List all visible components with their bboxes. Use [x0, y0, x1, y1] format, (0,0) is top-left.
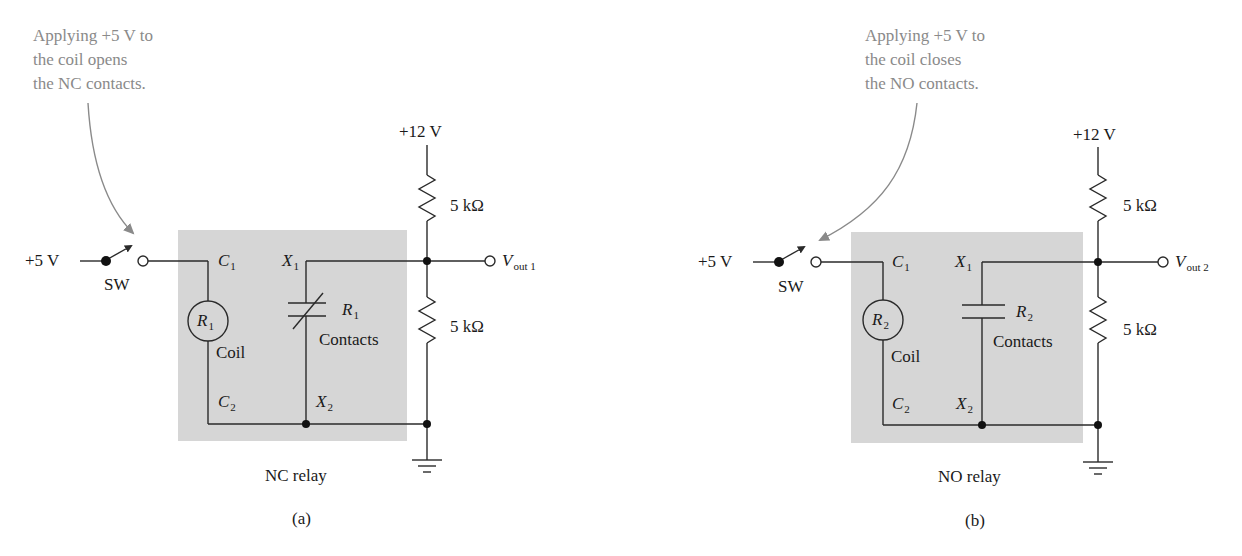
- input-voltage-b: +5 V: [698, 253, 732, 271]
- coil-ref-a: R1: [197, 312, 214, 331]
- node-x2-a: [302, 420, 310, 428]
- resistor-bottom-b: 5 kΩ: [1123, 321, 1157, 339]
- terminal-c1-b: C1: [892, 253, 910, 272]
- relay-label-a: NC relay: [265, 467, 327, 485]
- coil-label-b: Coil: [891, 348, 920, 366]
- caption-b: (b): [965, 512, 985, 530]
- terminal-c1-a: C1: [218, 252, 236, 271]
- panel-a-wiring: [80, 103, 485, 472]
- switch-pivot-a: [101, 256, 111, 266]
- node-gnd-b: [1094, 421, 1102, 429]
- contacts-label-b: Contacts: [993, 333, 1053, 351]
- contacts-label-a: Contacts: [319, 331, 379, 349]
- resistor-bottom-a: 5 kΩ: [450, 318, 484, 336]
- coil-ref-b: R2: [872, 311, 889, 330]
- node-gnd-a: [423, 420, 431, 428]
- switch-label-b: SW: [778, 278, 804, 296]
- contacts-ref-a: R1: [342, 301, 359, 320]
- terminal-c2-a: C2: [218, 393, 236, 412]
- panel-b-wiring: [753, 103, 1158, 474]
- circuit-schematic: [0, 0, 1242, 556]
- switch-contact-a: [138, 256, 148, 266]
- node-out-a: [423, 257, 431, 265]
- panel-b-nodes: [774, 257, 1102, 429]
- resistor-top-a: 5 kΩ: [450, 197, 484, 215]
- input-voltage-a: +5 V: [25, 252, 59, 270]
- vout2-label: Vout 2: [1175, 253, 1209, 272]
- switch-pivot-b: [774, 257, 784, 267]
- annotation-b: Applying +5 V to the coil closes the NO …: [865, 24, 985, 96]
- terminal-c2-b: C2: [892, 395, 910, 414]
- panel-a-nodes: [101, 256, 431, 428]
- vout1-label: Vout 1: [502, 252, 536, 271]
- switch-label-a: SW: [104, 276, 130, 294]
- coil-label-a: Coil: [216, 344, 245, 362]
- supply-voltage-b: +12 V: [1073, 126, 1116, 144]
- node-x2-b: [978, 421, 986, 429]
- supply-voltage-a: +12 V: [399, 123, 442, 141]
- terminal-x1-a: X1: [282, 252, 299, 271]
- vout1-terminal: [485, 256, 495, 266]
- annotation-a: Applying +5 V to the coil opens the NC c…: [33, 24, 153, 96]
- resistor-top-b: 5 kΩ: [1123, 197, 1157, 215]
- terminal-x2-b: X2: [956, 395, 973, 414]
- terminal-x1-b: X1: [955, 253, 972, 272]
- caption-a: (a): [292, 510, 311, 528]
- contacts-ref-b: R2: [1016, 303, 1033, 322]
- switch-contact-b: [811, 257, 821, 267]
- relay-label-b: NO relay: [938, 468, 1001, 486]
- terminal-x2-a: X2: [316, 393, 333, 412]
- node-out-b: [1094, 258, 1102, 266]
- vout2-terminal: [1158, 257, 1168, 267]
